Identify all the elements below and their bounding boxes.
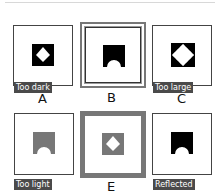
option-c-card[interactable] [152,25,212,86]
grey-square-with-diamond-icon [102,133,124,155]
option-e-card[interactable] [80,111,146,178]
option-b-letter: B [107,91,116,104]
option-d-card[interactable] [14,113,74,175]
option-e-letter: E [107,180,115,191]
square-with-diamond-icon [32,44,54,66]
option-d-letter: D [38,190,48,191]
grey-square-with-arch-icon [33,132,55,154]
option-c-tag: Too large [153,82,193,93]
option-b-card[interactable] [80,22,146,88]
option-a-card[interactable] [13,25,73,86]
option-f-card[interactable] [152,113,212,175]
top-divider [5,2,215,3]
option-f-tag: Reflected [153,179,195,190]
option-f-letter: F [177,190,184,191]
option-a-letter: A [38,92,47,105]
square-with-large-diamond-icon [171,43,195,67]
reflected-square-with-arch-icon [171,132,193,154]
option-c-letter: C [177,92,186,105]
square-with-arch-icon [103,45,125,67]
